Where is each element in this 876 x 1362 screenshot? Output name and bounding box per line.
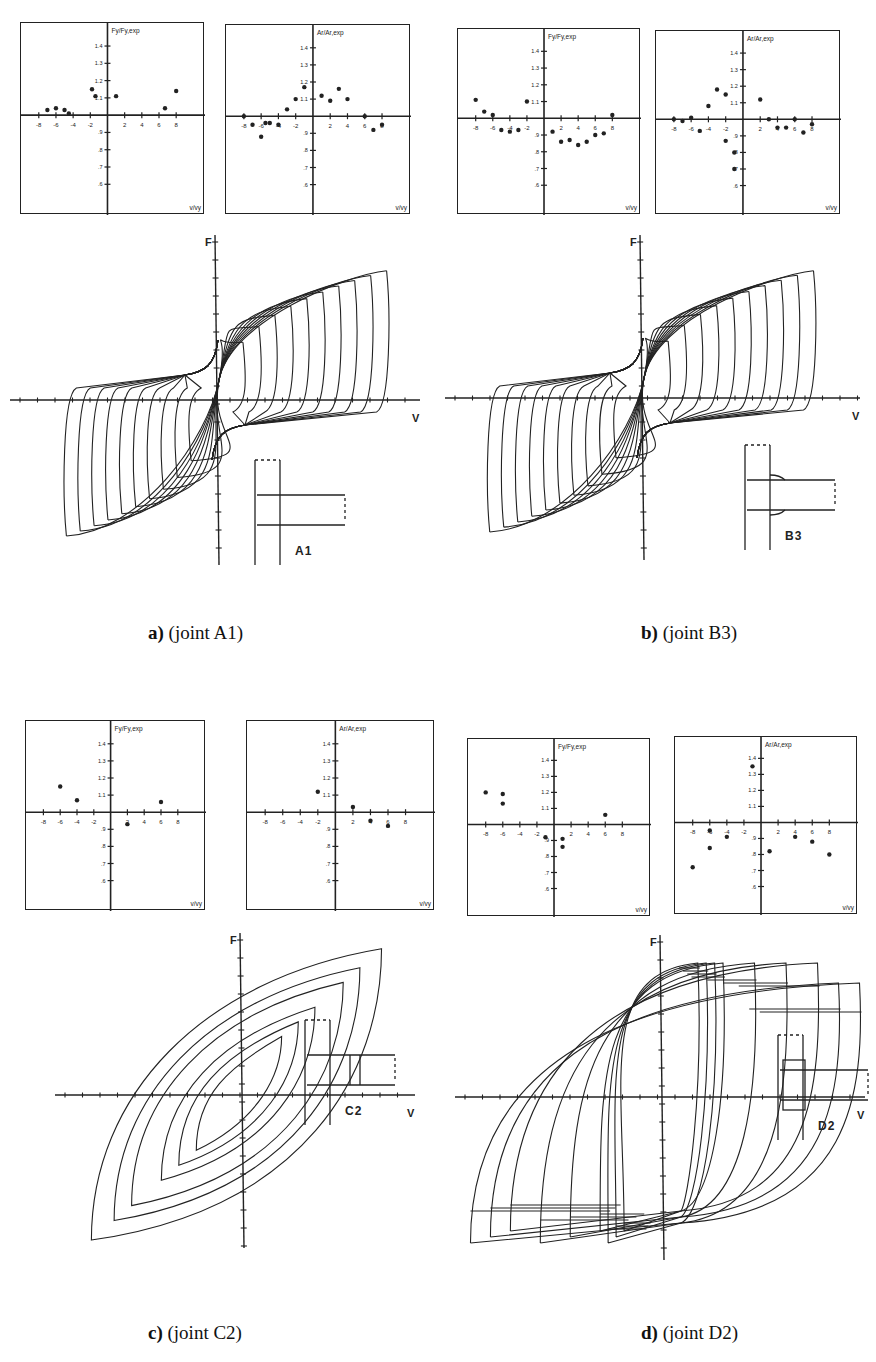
svg-text:.7: .7 xyxy=(98,164,103,170)
svg-text:6: 6 xyxy=(604,831,608,837)
svg-text:4: 4 xyxy=(140,122,144,128)
svg-text:1.2: 1.2 xyxy=(98,775,106,781)
svg-text:1.1: 1.1 xyxy=(300,96,308,102)
svg-text:6: 6 xyxy=(159,819,163,825)
svg-text:.9: .9 xyxy=(326,826,331,832)
scatter-plot-b-area_ratio: -8-6-4-22468.6.7.8.91.11.21.31.4Ar/Ar,ex… xyxy=(655,30,840,214)
svg-text:Ar/Ar,exp: Ar/Ar,exp xyxy=(765,741,792,749)
svg-text:8: 8 xyxy=(404,819,408,825)
svg-text:1.1: 1.1 xyxy=(531,99,539,105)
scatter-plot-a-area_ratio: -8-6-4-22468.6.7.8.91.11.21.31.4Ar/Ar,ex… xyxy=(225,24,410,214)
svg-text:6: 6 xyxy=(811,829,815,835)
svg-text:8: 8 xyxy=(828,829,832,835)
svg-text:1.4: 1.4 xyxy=(730,50,738,56)
svg-text:.9: .9 xyxy=(101,826,106,832)
svg-text:.7: .7 xyxy=(544,870,549,876)
svg-text:1.3: 1.3 xyxy=(730,67,738,73)
svg-text:1.1: 1.1 xyxy=(730,100,738,106)
svg-text:-2: -2 xyxy=(293,123,299,129)
joint-label: C2 xyxy=(345,1104,362,1118)
svg-text:.8: .8 xyxy=(544,853,549,859)
svg-text:.8: .8 xyxy=(303,147,308,153)
svg-text:F: F xyxy=(650,936,657,948)
svg-text:1.2: 1.2 xyxy=(95,78,103,84)
caption-a: a) (joint A1) xyxy=(148,622,243,644)
svg-text:8: 8 xyxy=(611,125,615,131)
svg-text:.9: .9 xyxy=(751,835,756,841)
svg-text:v/vy: v/vy xyxy=(395,204,407,212)
svg-text:-6: -6 xyxy=(53,122,59,128)
svg-text:.6: .6 xyxy=(98,181,103,187)
svg-text:-4: -4 xyxy=(298,819,304,825)
svg-text:1.2: 1.2 xyxy=(541,789,549,795)
svg-text:Fy/Fy,exp: Fy/Fy,exp xyxy=(548,33,576,41)
svg-text:1.3: 1.3 xyxy=(531,65,539,71)
svg-text:Ar/Ar,exp: Ar/Ar,exp xyxy=(317,29,344,37)
svg-text:-2: -2 xyxy=(524,125,530,131)
svg-text:Ar/Ar,exp: Ar/Ar,exp xyxy=(747,35,774,43)
svg-text:1.3: 1.3 xyxy=(541,773,549,779)
svg-text:1.2: 1.2 xyxy=(730,83,738,89)
caption-b: b) (joint B3) xyxy=(641,622,737,644)
svg-text:-2: -2 xyxy=(534,831,540,837)
svg-text:-6: -6 xyxy=(280,819,286,825)
svg-text:1.3: 1.3 xyxy=(95,60,103,66)
svg-text:v/vy: v/vy xyxy=(635,906,647,914)
svg-text:.8: .8 xyxy=(534,149,539,155)
svg-text:4: 4 xyxy=(576,125,580,131)
svg-text:8: 8 xyxy=(810,126,814,132)
svg-text:v/vy: v/vy xyxy=(189,204,201,212)
svg-text:.7: .7 xyxy=(751,868,756,874)
svg-text:-2: -2 xyxy=(741,829,747,835)
svg-text:v/vy: v/vy xyxy=(842,904,854,912)
svg-text:1.4: 1.4 xyxy=(531,48,539,54)
scatter-plot-d-force_ratio: -8-6-4-22468.6.7.8.91.11.21.31.4Fy/Fy,ex… xyxy=(467,738,650,916)
svg-text:8: 8 xyxy=(621,831,625,837)
svg-text:2: 2 xyxy=(569,831,573,837)
svg-text:-2: -2 xyxy=(88,122,94,128)
svg-text:1.2: 1.2 xyxy=(531,82,539,88)
svg-text:1.4: 1.4 xyxy=(541,757,549,763)
svg-text:-8: -8 xyxy=(671,126,677,132)
svg-text:V: V xyxy=(852,410,860,422)
svg-text:-8: -8 xyxy=(690,829,696,835)
svg-text:-8: -8 xyxy=(41,819,47,825)
svg-text:1.4: 1.4 xyxy=(748,755,756,761)
svg-text:.6: .6 xyxy=(751,884,756,890)
hysteresis-plot-b: FVB3 xyxy=(445,230,870,565)
svg-text:v/vy: v/vy xyxy=(190,900,202,908)
svg-text:1.2: 1.2 xyxy=(323,775,331,781)
svg-text:.7: .7 xyxy=(326,861,331,867)
svg-text:V: V xyxy=(407,1107,415,1119)
scatter-plot-c-area_ratio: -8-6-4-22468.6.7.8.91.11.21.31.4Ar/Ar,ex… xyxy=(246,720,434,910)
svg-text:-6: -6 xyxy=(58,819,64,825)
svg-text:1.1: 1.1 xyxy=(98,792,106,798)
svg-text:.8: .8 xyxy=(98,147,103,153)
svg-text:.6: .6 xyxy=(303,182,308,188)
svg-text:V: V xyxy=(412,412,420,424)
svg-text:1.3: 1.3 xyxy=(323,758,331,764)
svg-text:2: 2 xyxy=(351,819,355,825)
svg-text:-4: -4 xyxy=(70,122,76,128)
svg-text:.6: .6 xyxy=(326,878,331,884)
svg-text:-8: -8 xyxy=(263,819,269,825)
svg-text:.9: .9 xyxy=(98,129,103,135)
hysteresis-plot-d: FVD2 xyxy=(455,930,875,1265)
svg-text:1.3: 1.3 xyxy=(98,758,106,764)
svg-text:.6: .6 xyxy=(733,183,738,189)
svg-text:-6: -6 xyxy=(490,125,496,131)
svg-text:Ar/Ar,exp: Ar/Ar,exp xyxy=(339,725,366,733)
svg-text:Fy/Fy,exp: Fy/Fy,exp xyxy=(115,725,143,733)
svg-text:-6: -6 xyxy=(688,126,694,132)
scatter-plot-b-force_ratio: -8-6-4-22468.6.7.8.91.11.21.31.4Fy/Fy,ex… xyxy=(457,28,640,214)
joint-label: B3 xyxy=(785,529,802,543)
svg-text:-2: -2 xyxy=(723,126,729,132)
svg-text:1.3: 1.3 xyxy=(748,771,756,777)
svg-text:8: 8 xyxy=(176,819,180,825)
svg-text:F: F xyxy=(230,934,237,946)
svg-text:1.1: 1.1 xyxy=(323,792,331,798)
hysteresis-plot-a: FVA1 xyxy=(10,230,430,570)
scatter-plot-c-force_ratio: -8-6-4-22468.6.7.8.91.11.21.31.4Fy/Fy,ex… xyxy=(25,720,205,910)
svg-text:.6: .6 xyxy=(534,182,539,188)
svg-text:-2: -2 xyxy=(91,819,97,825)
